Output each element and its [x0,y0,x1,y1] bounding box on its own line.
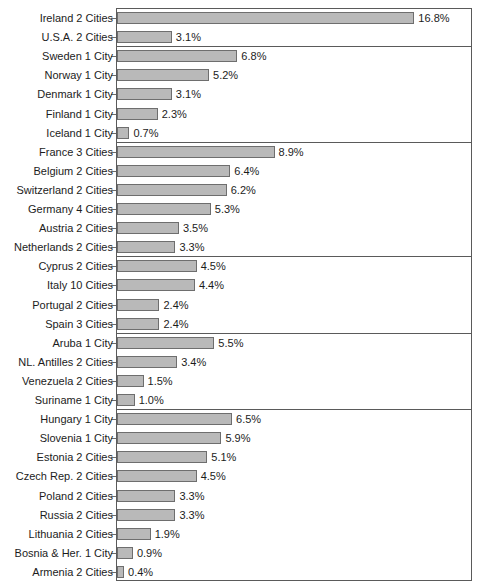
bar [117,241,175,253]
table-row: Armenia 2 Cities0.4% [0,562,481,581]
category-label: NL. Antilles 2 Cities [0,355,113,369]
table-row: Finland 1 City2.3% [0,104,481,123]
category-label: Sweden 1 City [0,49,113,63]
category-label: Armenia 2 Cities [0,565,113,579]
category-label: Norway 1 City [0,68,113,82]
table-row: Cyprus 2 Cities4.5% [0,256,481,275]
bar [117,50,237,62]
bar [117,279,195,291]
table-row: Portugal 2 Cities2.4% [0,295,481,314]
bar-value-label: 3.3% [179,240,204,254]
table-row: France 3 Cities8.9% [0,142,481,161]
table-row: NL. Antilles 2 Cities3.4% [0,352,481,371]
bar-value-label: 6.5% [236,412,261,426]
bar-value-label: 3.3% [179,508,204,522]
bar [117,547,133,559]
bar-value-label: 3.1% [176,30,201,44]
category-label: Switzerland 2 Cities [0,183,113,197]
category-label: Cyprus 2 Cities [0,259,113,273]
bar-value-label: 2.4% [163,298,188,312]
table-row: U.S.A. 2 Cities3.1% [0,27,481,46]
bar-value-label: 5.2% [213,68,238,82]
category-label: Portugal 2 Cities [0,298,113,312]
bar-value-label: 5.1% [211,450,236,464]
table-row: Suriname 1 City1.0% [0,390,481,409]
bar [117,69,209,81]
table-row: Sweden 1 City6.8% [0,46,481,65]
bar-value-label: 0.9% [137,546,162,560]
bar [117,451,207,463]
table-row: Germany 4 Cities5.3% [0,199,481,218]
category-label: Italy 10 Cities [0,278,113,292]
table-row: Poland 2 Cities3.3% [0,486,481,505]
category-label: U.S.A. 2 Cities [0,30,113,44]
bar-value-label: 5.9% [225,431,250,445]
table-row: Belgium 2 Cities6.4% [0,161,481,180]
bar-value-label: 4.4% [199,278,224,292]
bar [117,413,232,425]
bar-value-label: 2.3% [162,107,187,121]
bar-value-label: 3.3% [179,489,204,503]
table-row: Russia 2 Cities3.3% [0,505,481,524]
bar-value-label: 1.0% [139,393,164,407]
category-label: Denmark 1 City [0,87,113,101]
category-label: France 3 Cities [0,145,113,159]
bar-value-label: 6.2% [231,183,256,197]
bar [117,470,197,482]
bar-value-label: 1.9% [155,527,180,541]
bar [117,528,151,540]
table-row: Iceland 1 City0.7% [0,123,481,142]
table-row: Switzerland 2 Cities6.2% [0,180,481,199]
category-label: Spain 3 Cities [0,317,113,331]
table-row: Lithuania 2 Cities1.9% [0,524,481,543]
bar [117,127,129,139]
bar [117,337,214,349]
bar-value-label: 0.7% [133,126,158,140]
bar [117,31,172,43]
category-label: Lithuania 2 Cities [0,527,113,541]
bar [117,509,175,521]
category-label: Bosnia & Her. 1 City [0,546,113,560]
bar [117,490,175,502]
bar-value-label: 6.8% [241,49,266,63]
table-row: Netherlands 2 Cities3.3% [0,237,481,256]
category-label: Estonia 2 Cities [0,450,113,464]
table-row: Ireland 2 Cities16.8% [0,8,481,27]
bar [117,146,275,158]
bar-value-label: 5.3% [215,202,240,216]
horizontal-bar-chart: Ireland 2 Cities16.8%U.S.A. 2 Cities3.1%… [0,0,481,585]
category-label: Netherlands 2 Cities [0,240,113,254]
category-label: Russia 2 Cities [0,508,113,522]
bar [117,260,197,272]
category-label: Belgium 2 Cities [0,164,113,178]
bar-value-label: 5.5% [218,336,243,350]
bar-value-label: 3.5% [183,221,208,235]
bar [117,184,227,196]
table-row: Norway 1 City5.2% [0,65,481,84]
bar [117,318,159,330]
bar [117,432,221,444]
table-row: Slovenia 1 City5.9% [0,428,481,447]
table-row: Italy 10 Cities4.4% [0,275,481,294]
bar [117,12,414,24]
bar [117,375,144,387]
bar [117,356,177,368]
category-label: Czech Rep. 2 Cities [0,469,113,483]
bar [117,566,124,578]
table-row: Aruba 1 City5.5% [0,333,481,352]
bar-value-label: 2.4% [163,317,188,331]
bar-value-label: 0.4% [128,565,153,579]
table-row: Denmark 1 City3.1% [0,84,481,103]
table-row: Czech Rep. 2 Cities4.5% [0,466,481,485]
table-row: Estonia 2 Cities5.1% [0,447,481,466]
category-label: Austria 2 Cities [0,221,113,235]
category-label: Ireland 2 Cities [0,11,113,25]
category-label: Slovenia 1 City [0,431,113,445]
category-label: Hungary 1 City [0,412,113,426]
bar-value-label: 3.1% [176,87,201,101]
table-row: Hungary 1 City6.5% [0,409,481,428]
bar-value-label: 4.5% [201,469,226,483]
category-label: Venezuela 2 Cities [0,374,113,388]
bar [117,394,135,406]
bar [117,165,230,177]
